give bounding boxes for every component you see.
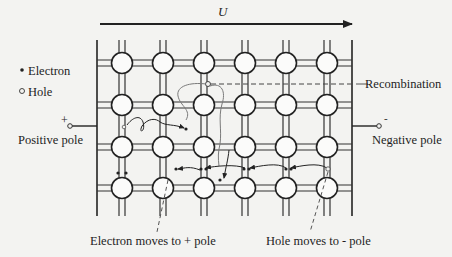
electron-trajectory bbox=[127, 118, 184, 131]
legend-electron-label: Electron bbox=[28, 64, 71, 78]
recombination-label: Recombination bbox=[365, 77, 442, 91]
hole-marker-bottom bbox=[326, 167, 330, 171]
semiconductor-diagram: U bbox=[0, 0, 452, 257]
legend: Electron Hole bbox=[20, 64, 72, 99]
negative-terminal-icon bbox=[377, 124, 382, 129]
recombination-marker bbox=[206, 82, 356, 87]
positive-sign: + bbox=[61, 113, 68, 127]
positive-pole: + Positive pole bbox=[18, 113, 97, 147]
positive-pole-label: Positive pole bbox=[18, 133, 83, 147]
negative-pole: - Negative pole bbox=[352, 112, 442, 147]
hole-legend-icon bbox=[20, 89, 25, 94]
hole-marker bbox=[122, 125, 126, 129]
electron-marker bbox=[184, 127, 187, 130]
voltage-label: U bbox=[218, 4, 229, 19]
hole-moves-label: Hole moves to - pole bbox=[266, 234, 371, 248]
voltage-arrow: U bbox=[100, 4, 352, 24]
lattice-bonds bbox=[97, 40, 352, 216]
negative-sign: - bbox=[384, 112, 388, 124]
legend-hole-label: Hole bbox=[28, 85, 53, 99]
electron-moves-label: Electron moves to + pole bbox=[90, 234, 216, 248]
positive-terminal-icon bbox=[68, 124, 73, 129]
negative-pole-label: Negative pole bbox=[372, 133, 442, 147]
electron-legend-icon bbox=[20, 68, 24, 72]
